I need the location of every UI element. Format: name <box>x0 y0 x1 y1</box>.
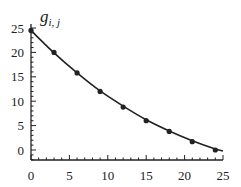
data-point <box>144 118 149 123</box>
axes <box>31 24 223 160</box>
y-tick-label: 15 <box>11 69 24 84</box>
x-tick-label: 15 <box>140 168 153 183</box>
x-tick-label: 0 <box>28 168 35 183</box>
data-points <box>28 28 218 153</box>
data-point <box>190 139 195 144</box>
data-point <box>51 50 56 55</box>
x-tick-label: 20 <box>178 168 191 183</box>
tick-labels: 05101520250510152025 <box>11 21 230 184</box>
y-tick-label: 25 <box>11 21 24 36</box>
x-tick-label: 25 <box>217 168 230 183</box>
data-point <box>167 129 172 134</box>
data-point <box>28 28 33 33</box>
x-tick-label: 5 <box>66 168 73 183</box>
y-tick-label: 20 <box>11 45 24 60</box>
y-tick-label: 10 <box>11 94 24 109</box>
y-tick-label: 0 <box>18 143 25 158</box>
x-tick-label: 10 <box>101 168 114 183</box>
y-tick-label: 5 <box>18 118 25 133</box>
chart: 05101520250510152025 gi, j <box>0 0 241 187</box>
data-point <box>98 89 103 94</box>
data-point <box>121 104 126 109</box>
y-axis-label-main: g <box>40 7 49 26</box>
data-point <box>74 70 79 75</box>
data-point <box>213 147 218 152</box>
y-axis-label: gi, j <box>40 7 60 28</box>
y-axis-label-sub: i, j <box>49 16 61 28</box>
fitted-curve <box>31 30 223 151</box>
